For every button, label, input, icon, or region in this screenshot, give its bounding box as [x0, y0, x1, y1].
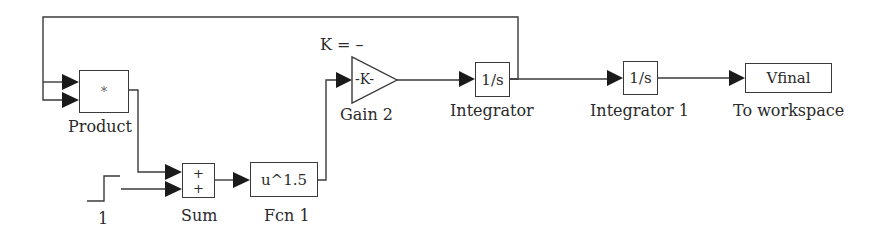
arrow-icon — [233, 172, 250, 188]
product-label: Product — [68, 119, 132, 135]
fcn-to-gain-wire — [318, 80, 338, 180]
sum-sign-1: + — [193, 166, 204, 181]
arrow-icon — [62, 74, 79, 90]
gain-label: Gain 2 — [340, 107, 393, 123]
fcn-block[interactable]: u^1.5 — [250, 162, 318, 197]
gain-annotation: K = – — [320, 37, 364, 53]
integrator1-block[interactable]: 1/s — [623, 61, 658, 95]
product-symbol: * — [101, 84, 108, 99]
arrow-icon — [165, 164, 182, 180]
fcn-expression: u^1.5 — [261, 171, 307, 189]
integrator-label: Integrator — [450, 103, 534, 119]
arrow-icon — [459, 71, 475, 87]
fcn-label: Fcn 1 — [264, 208, 310, 224]
block-diagram-canvas: * Product 1 + + Sum u^1.5 Fcn 1 K = – -K… — [0, 0, 886, 233]
integrator-block[interactable]: 1/s — [475, 62, 510, 97]
integrator1-expression: 1/s — [629, 69, 651, 87]
step-label: 1 — [98, 211, 108, 227]
arrow-icon — [607, 70, 623, 86]
integrator1-label: Integrator 1 — [590, 103, 689, 119]
to-workspace-label: To workspace — [733, 103, 844, 119]
sum-sign-2: + — [193, 181, 204, 196]
workspace-variable: Vfinal — [766, 69, 810, 87]
integrator-expression: 1/s — [481, 71, 503, 89]
arrow-icon — [336, 72, 352, 88]
sum-signs: + + — [193, 166, 204, 196]
arrow-icon — [62, 92, 79, 108]
arrow-icon — [165, 181, 182, 197]
sum-label: Sum — [181, 208, 217, 224]
step-icon — [87, 176, 120, 201]
product-block[interactable]: * — [79, 70, 129, 113]
arrow-icon — [729, 70, 745, 86]
gain-value[interactable]: -K- — [355, 72, 374, 86]
product-to-sum-wire — [128, 90, 167, 172]
sum-block[interactable]: + + — [182, 163, 215, 198]
to-workspace-block[interactable]: Vfinal — [745, 63, 832, 93]
